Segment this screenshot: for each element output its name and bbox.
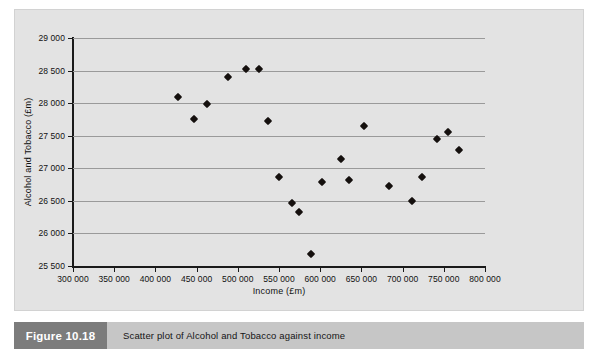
x-tick — [361, 267, 362, 272]
y-tick-label: 26 500 — [38, 196, 65, 206]
gridline — [73, 38, 485, 39]
gridline — [73, 136, 485, 137]
x-tick — [73, 267, 74, 272]
scatter-point — [275, 173, 283, 181]
y-tick — [68, 233, 73, 234]
x-tick — [279, 267, 280, 272]
x-tick — [485, 267, 486, 272]
x-tick — [238, 267, 239, 272]
x-tick-label: 650 000 — [346, 274, 377, 284]
x-tick — [320, 267, 321, 272]
x-tick — [197, 267, 198, 272]
y-tick — [68, 201, 73, 202]
gridline — [73, 233, 485, 234]
scatter-point — [307, 250, 315, 258]
x-tick-label: 750 000 — [428, 274, 459, 284]
y-tick-label: 27 000 — [38, 163, 65, 173]
y-tick-label: 26 000 — [38, 228, 65, 238]
scatter-point — [242, 65, 250, 73]
y-tick-label: 28 000 — [38, 98, 65, 108]
x-tick-label: 800 000 — [469, 274, 500, 284]
scatter-point — [417, 173, 425, 181]
scatter-point — [345, 175, 353, 183]
y-tick-label: 27 500 — [38, 131, 65, 141]
figure-caption-text: Scatter plot of Alcohol and Tobacco agai… — [107, 322, 584, 349]
scatter-point — [407, 197, 415, 205]
gridline — [73, 201, 485, 202]
x-tick-label: 550 000 — [263, 274, 294, 284]
y-tick — [68, 71, 73, 72]
x-tick-label: 350 000 — [98, 274, 129, 284]
x-tick-label: 300 000 — [57, 274, 88, 284]
x-tick — [114, 267, 115, 272]
figure-panel: Alcohol and Tobacco (£m) Income (£m) 25 … — [14, 9, 584, 311]
gridline — [73, 103, 485, 104]
y-tick-label: 25 500 — [38, 261, 65, 271]
gridline — [73, 71, 485, 72]
y-tick — [68, 168, 73, 169]
scatter-point — [384, 182, 392, 190]
page-root: Alcohol and Tobacco (£m) Income (£m) 25 … — [0, 0, 599, 364]
y-tick-label: 28 500 — [38, 66, 65, 76]
x-tick-label: 500 000 — [222, 274, 253, 284]
x-tick-label: 600 000 — [304, 274, 335, 284]
scatter-point — [190, 115, 198, 123]
scatter-point — [255, 65, 263, 73]
x-tick-label: 700 000 — [387, 274, 418, 284]
scatter-point — [288, 199, 296, 207]
figure-number-tag: Figure 10.18 — [14, 322, 107, 349]
scatter-point — [264, 117, 272, 125]
plot-area: 25 50026 00026 50027 00027 50028 00028 5… — [73, 38, 485, 266]
x-axis-title: Income (£m) — [73, 286, 485, 296]
scatter-point — [454, 146, 462, 154]
scatter-point — [295, 208, 303, 216]
x-tick — [444, 267, 445, 272]
scatter-point — [318, 177, 326, 185]
x-tick-label: 400 000 — [140, 274, 171, 284]
x-tick-label: 450 000 — [181, 274, 212, 284]
y-tick-label: 29 000 — [38, 33, 65, 43]
scatter-point — [203, 100, 211, 108]
y-tick — [68, 103, 73, 104]
y-tick — [68, 136, 73, 137]
x-tick — [403, 267, 404, 272]
x-tick — [155, 267, 156, 272]
scatter-chart: Alcohol and Tobacco (£m) Income (£m) 25 … — [15, 10, 585, 312]
y-tick — [68, 38, 73, 39]
figure-caption-bar: Figure 10.18 Scatter plot of Alcohol and… — [14, 322, 584, 349]
scatter-point — [360, 122, 368, 130]
scatter-point — [174, 93, 182, 101]
gridline — [73, 168, 485, 169]
y-axis-title: Alcohol and Tobacco (£m) — [23, 38, 37, 266]
scatter-point — [224, 73, 232, 81]
scatter-point — [337, 155, 345, 163]
